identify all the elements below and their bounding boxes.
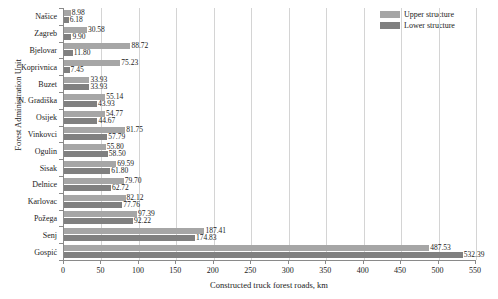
y-category-label: Ogulin — [35, 146, 57, 155]
bar-lower-structure[interactable] — [64, 168, 110, 174]
bar-group: 487.53532.39 — [64, 243, 475, 260]
bar-lower-structure[interactable] — [64, 202, 122, 208]
y-category-label: Gospić — [34, 247, 57, 256]
y-axis-title: Forest Administration Unit — [13, 35, 23, 175]
bar-line: 75.23 — [64, 60, 475, 66]
plot-area: 8.986.1830.589.9088.7211.8075.237.4533.9… — [63, 8, 475, 260]
bar-value-label: 62.72 — [111, 184, 129, 192]
bar-group: 54.7744.67 — [64, 109, 475, 126]
x-tickmark — [363, 260, 364, 264]
x-tick-label: 0 — [61, 265, 65, 276]
gridline — [476, 8, 477, 260]
bar-line: 8.98 — [64, 10, 475, 16]
bar-line: 92.22 — [64, 218, 475, 224]
bar-line: 43.93 — [64, 101, 475, 107]
bar-chart: Upper structure Lower structure NašiceZa… — [0, 0, 498, 299]
bar-lower-structure[interactable] — [64, 151, 108, 157]
bar-group: 8.986.18 — [64, 8, 475, 25]
bar-line: 487.53 — [64, 245, 475, 251]
x-axis-tick-labels: 050100150200250300350400450500550 — [63, 265, 475, 277]
bar-group: 81.7557.79 — [64, 126, 475, 143]
y-category-label: Senj — [43, 230, 57, 239]
bar-group: 30.589.90 — [64, 25, 475, 42]
bar-group: 75.237.45 — [64, 58, 475, 75]
bar-line: 55.14 — [64, 94, 475, 100]
y-category-label: Bjelovar — [29, 46, 57, 55]
bar-group: 82.1277.76 — [64, 193, 475, 210]
bar-upper-structure[interactable] — [64, 228, 204, 234]
bar-upper-structure[interactable] — [64, 77, 89, 83]
x-axis-tickmarks — [63, 260, 475, 264]
bar-value-label: 7.45 — [70, 66, 84, 74]
bar-value-label: 30.58 — [87, 26, 105, 34]
bar-line: 532.39 — [64, 252, 475, 258]
x-tickmark — [325, 260, 326, 264]
bar-group: 187.41174.83 — [64, 226, 475, 243]
bar-lower-structure[interactable] — [64, 235, 195, 241]
bar-line: 81.75 — [64, 127, 475, 133]
bar-lower-structure[interactable] — [64, 134, 107, 140]
bar-value-label: 88.72 — [130, 42, 148, 50]
y-category-label: Vinkovci — [28, 130, 57, 139]
bar-value-label: 57.79 — [107, 133, 125, 141]
bar-group: 79.7062.72 — [64, 176, 475, 193]
x-axis-title: Constructed truck forest roads, km — [63, 280, 475, 290]
bar-group: 88.7211.80 — [64, 42, 475, 59]
bar-lower-structure[interactable] — [64, 185, 111, 191]
bar-value-label: 11.80 — [73, 49, 91, 57]
bar-line: 97.39 — [64, 211, 475, 217]
bar-lower-structure[interactable] — [64, 34, 71, 40]
bar-upper-structure[interactable] — [64, 144, 106, 150]
bar-line: 77.76 — [64, 202, 475, 208]
bar-line: 11.80 — [64, 50, 475, 56]
bar-lower-structure[interactable] — [64, 218, 133, 224]
x-tick-label: 200 — [207, 265, 219, 276]
x-tick-label: 300 — [282, 265, 294, 276]
bar-value-label: 174.83 — [195, 234, 217, 242]
bar-lower-structure[interactable] — [64, 50, 73, 56]
bar-line: 61.80 — [64, 168, 475, 174]
bar-value-label: 487.53 — [429, 244, 451, 252]
bar-value-label: 33.93 — [89, 83, 107, 91]
bar-line: 9.90 — [64, 34, 475, 40]
bar-rows: 8.986.1830.589.9088.7211.8075.237.4533.9… — [64, 8, 475, 260]
bar-lower-structure[interactable] — [64, 101, 97, 107]
bar-value-label: 75.23 — [120, 59, 138, 67]
y-axis-category-labels: NašiceZagrebBjelovarKoprivnicaBuzetN. Gr… — [0, 8, 61, 260]
y-category-label: Zagreb — [34, 29, 57, 38]
bar-lower-structure[interactable] — [64, 84, 89, 90]
bar-lower-structure[interactable] — [64, 252, 463, 258]
bar-upper-structure[interactable] — [64, 211, 137, 217]
x-tick-label: 250 — [244, 265, 256, 276]
bar-line: 33.93 — [64, 84, 475, 90]
bar-upper-structure[interactable] — [64, 245, 429, 251]
x-tick-label: 450 — [394, 265, 406, 276]
bar-upper-structure[interactable] — [64, 195, 126, 201]
x-tickmark — [138, 260, 139, 264]
bar-value-label: 77.76 — [122, 201, 140, 209]
bar-line: 54.77 — [64, 111, 475, 117]
bar-value-label: 61.80 — [110, 167, 128, 175]
bar-line: 174.83 — [64, 235, 475, 241]
x-tickmark — [475, 260, 476, 264]
y-category-label: Karlovac — [28, 197, 57, 206]
bar-value-label: 9.90 — [71, 33, 85, 41]
x-tick-label: 550 — [469, 265, 481, 276]
bar-line: 58.50 — [64, 151, 475, 157]
bar-value-label: 81.75 — [125, 126, 143, 134]
bar-line: 62.72 — [64, 185, 475, 191]
x-tick-label: 500 — [432, 265, 444, 276]
bar-line: 187.41 — [64, 228, 475, 234]
bar-lower-structure[interactable] — [64, 118, 97, 124]
bar-line: 7.45 — [64, 67, 475, 73]
bar-line: 57.79 — [64, 134, 475, 140]
y-category-label: Buzet — [38, 79, 57, 88]
bar-value-label: 43.93 — [97, 100, 115, 108]
x-tickmark — [400, 260, 401, 264]
bar-group: 55.8058.50 — [64, 142, 475, 159]
bar-group: 97.3992.22 — [64, 210, 475, 227]
bar-value-label: 6.18 — [69, 16, 83, 24]
bar-upper-structure[interactable] — [64, 161, 116, 167]
y-category-label: Požega — [34, 214, 57, 223]
bar-line: 44.67 — [64, 118, 475, 124]
